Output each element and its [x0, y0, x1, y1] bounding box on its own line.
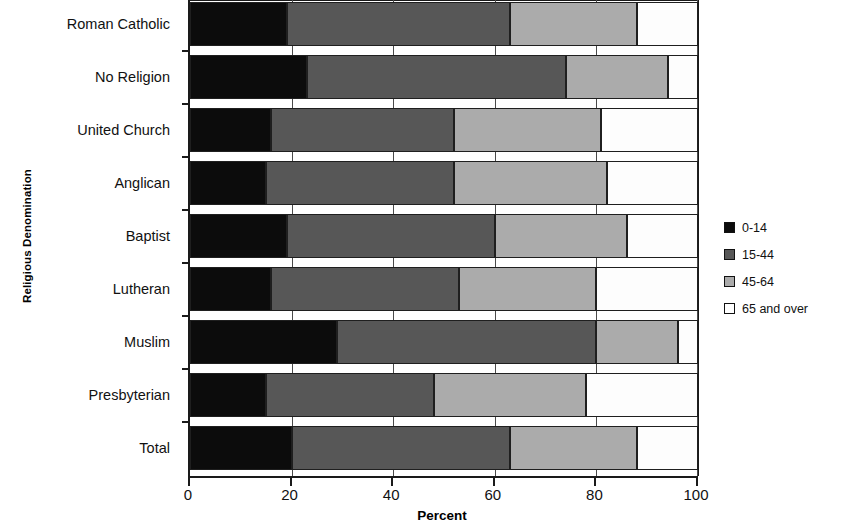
- bar-row: [190, 426, 698, 470]
- plot-area: [188, 0, 698, 478]
- x-axis-title: Percent: [188, 508, 696, 523]
- bar-segment: [271, 108, 454, 152]
- legend-item[interactable]: 45-64: [724, 268, 844, 295]
- x-axis-tick: [391, 478, 393, 486]
- legend-label: 45-64: [742, 275, 774, 289]
- legend-item[interactable]: 0-14: [724, 214, 844, 241]
- bar-segment: [637, 426, 698, 470]
- x-axis-tick-label: 20: [260, 486, 320, 503]
- category-label: Roman Catholic: [67, 2, 170, 46]
- y-axis-tick: [182, 103, 189, 105]
- stacked-bar-chart: Religious Denomination Roman CatholicNo …: [0, 0, 846, 530]
- legend-item[interactable]: 65 and over: [724, 295, 844, 322]
- y-axis-tick: [182, 315, 189, 317]
- category-label: Presbyterian: [89, 373, 170, 417]
- bar-row: [190, 161, 698, 205]
- x-axis-tick-label: 0: [158, 486, 218, 503]
- bar-row: [190, 267, 698, 311]
- x-axis-tick: [493, 478, 495, 486]
- y-axis-tick: [182, 209, 189, 211]
- legend-label: 65 and over: [742, 302, 808, 316]
- y-axis-tick: [182, 368, 189, 370]
- bar-row: [190, 55, 698, 99]
- legend-swatch-icon: [724, 276, 735, 287]
- bar-segment: [454, 108, 601, 152]
- category-label: Lutheran: [113, 267, 170, 311]
- legend-swatch-icon: [724, 303, 735, 314]
- bar-segment: [510, 426, 637, 470]
- bar-row: [190, 373, 698, 417]
- bar-segment: [566, 55, 668, 99]
- legend-swatch-icon: [724, 222, 735, 233]
- bar-segment: [190, 373, 266, 417]
- bar-segment: [434, 373, 586, 417]
- bar-segment: [190, 2, 287, 46]
- bar-segment: [292, 426, 510, 470]
- legend-swatch-icon: [724, 249, 735, 260]
- legend-label: 0-14: [742, 221, 767, 235]
- category-label: Anglican: [114, 161, 170, 205]
- x-axis-tick-labels: 020406080100: [0, 486, 846, 510]
- bar-segment: [607, 161, 698, 205]
- bar-segment: [190, 108, 271, 152]
- y-axis-tick: [182, 50, 189, 52]
- bar-segment: [190, 214, 287, 258]
- bar-segment: [459, 267, 596, 311]
- y-axis-tick: [182, 156, 189, 158]
- x-axis-tick: [696, 478, 698, 486]
- x-axis-tick-label: 100: [666, 486, 726, 503]
- x-axis-tick: [594, 478, 596, 486]
- bar-segment: [190, 55, 307, 99]
- x-axis-tick: [290, 478, 292, 486]
- legend-label: 15-44: [742, 248, 774, 262]
- bar-segment: [510, 2, 637, 46]
- bar-segment: [287, 2, 511, 46]
- category-label: United Church: [77, 108, 170, 152]
- bar-segment: [596, 320, 677, 364]
- x-axis-tick: [188, 478, 190, 486]
- bar-segment: [627, 214, 698, 258]
- plot-frame-top: [190, 0, 699, 1]
- bar-segment: [190, 426, 292, 470]
- bar-row: [190, 320, 698, 364]
- category-label: Total: [139, 426, 170, 470]
- bar-segment: [668, 55, 698, 99]
- category-label: Baptist: [126, 214, 170, 258]
- y-axis-tick: [182, 421, 189, 423]
- category-label-column: Roman CatholicNo ReligionUnited ChurchAn…: [0, 0, 178, 476]
- bar-segment: [266, 161, 454, 205]
- bar-segment: [337, 320, 596, 364]
- category-label: No Religion: [95, 55, 170, 99]
- bar-segment: [190, 320, 337, 364]
- bar-segment: [271, 267, 459, 311]
- bar-row: [190, 214, 698, 258]
- plot-frame-right: [698, 0, 699, 476]
- bar-segment: [601, 108, 698, 152]
- x-axis-tick-label: 80: [564, 486, 624, 503]
- y-axis-tick: [182, 262, 189, 264]
- legend-item[interactable]: 15-44: [724, 241, 844, 268]
- category-label: Muslim: [124, 320, 170, 364]
- bar-segment: [307, 55, 566, 99]
- bar-segment: [190, 161, 266, 205]
- bar-segment: [266, 373, 434, 417]
- bar-row: [190, 108, 698, 152]
- bar-row: [190, 2, 698, 46]
- x-axis-tick-label: 60: [463, 486, 523, 503]
- bar-segment: [190, 267, 271, 311]
- bar-segment: [596, 267, 698, 311]
- bar-segment: [287, 214, 495, 258]
- bar-segment: [637, 2, 698, 46]
- bar-segment: [454, 161, 606, 205]
- bar-segment: [678, 320, 698, 364]
- x-axis-tick-label: 40: [361, 486, 421, 503]
- legend: 0-1415-4445-6465 and over: [724, 214, 844, 322]
- bar-segment: [495, 214, 627, 258]
- bar-segment: [586, 373, 698, 417]
